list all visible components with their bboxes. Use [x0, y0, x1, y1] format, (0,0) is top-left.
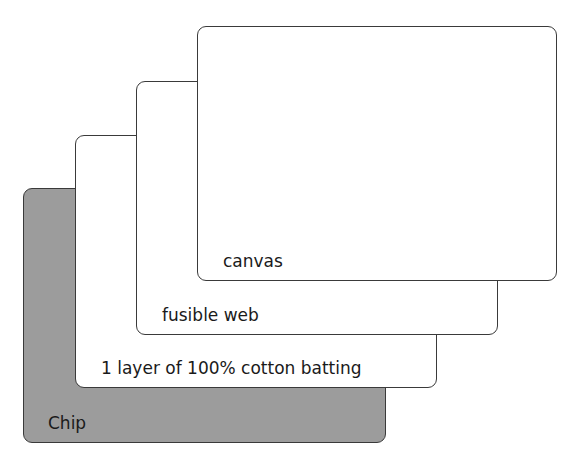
layer-label-fusible-web: fusible web [162, 305, 259, 325]
layer-label-canvas: canvas [223, 251, 283, 271]
layer-label-chip: Chip [48, 413, 86, 433]
layer-label-cotton-batting: 1 layer of 100% cotton batting [101, 358, 362, 378]
layer-canvas: canvas [197, 26, 557, 281]
